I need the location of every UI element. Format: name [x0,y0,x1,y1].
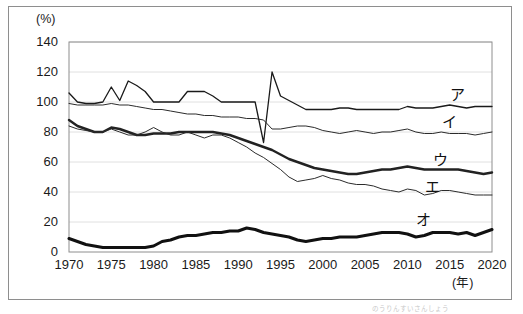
x-tick-label: 2020 [470,257,514,272]
x-tick-label: 2000 [301,257,345,272]
y-tick-label: 120 [24,64,58,79]
series-label-ア: ア [450,83,465,104]
series-line-5 [69,228,492,248]
x-tick-label: 2015 [428,257,472,272]
y-tick-label: 140 [24,34,58,49]
series-label-イ: イ [442,110,457,131]
series-line-3 [69,120,492,174]
x-tick-label: 1985 [174,257,218,272]
series-label-ウ: ウ [433,148,448,169]
series-label-オ: オ [416,208,431,229]
x-tick-label: 1990 [216,257,260,272]
y-tick-label: 60 [24,154,58,169]
x-tick-label: 2010 [385,257,429,272]
y-tick-label: 20 [24,214,58,229]
series-label-エ: エ [425,175,440,196]
x-tick-label: 1980 [132,257,176,272]
y-tick-label: 80 [24,124,58,139]
y-tick-label: 40 [24,184,58,199]
x-tick-label: 1970 [47,257,91,272]
source-footnote: のうりんすいさんしょう [372,303,449,313]
y-tick-label: 100 [24,94,58,109]
x-tick-label: 2005 [343,257,387,272]
x-tick-label: 1975 [89,257,133,272]
chart-figure: (%) (年) 020406080100120140 1970197519801… [0,0,523,314]
x-tick-label: 1995 [259,257,303,272]
